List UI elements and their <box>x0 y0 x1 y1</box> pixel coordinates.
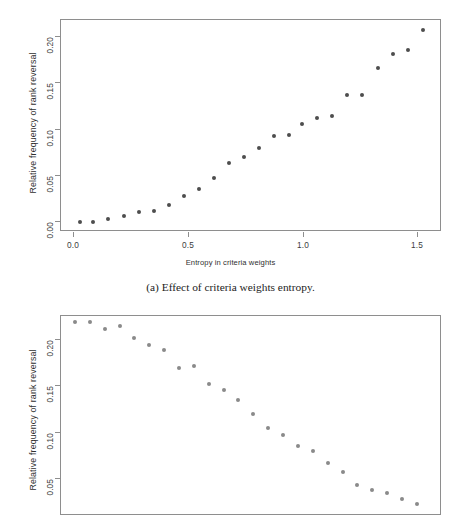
data-point <box>207 382 211 386</box>
data-point <box>147 343 151 347</box>
data-point <box>132 336 136 340</box>
data-point <box>222 388 226 392</box>
data-point <box>385 491 389 495</box>
data-point <box>192 364 196 368</box>
data-point <box>236 398 240 402</box>
y-tick-label-b-3: 0.20 <box>45 340 55 390</box>
data-point <box>311 449 315 453</box>
data-point <box>118 324 122 328</box>
data-point <box>281 433 285 437</box>
y-tick-label-b-1: 0.10 <box>45 433 55 483</box>
data-point <box>326 461 330 465</box>
data-point <box>415 502 419 506</box>
data-point <box>177 366 181 370</box>
data-point <box>88 320 92 324</box>
data-point <box>73 320 77 324</box>
data-point <box>341 470 345 474</box>
scatter-points-b <box>60 315 441 515</box>
data-point <box>162 348 166 352</box>
y-tick-label-b-2: 0.15 <box>45 386 55 436</box>
data-point <box>355 483 359 487</box>
data-point <box>103 327 107 331</box>
data-point <box>400 497 404 501</box>
y-axis-title-b: Relative frequency of rank reversal <box>28 325 38 515</box>
data-point <box>296 444 300 448</box>
y-tick-label-b-0: 0.05 <box>45 479 55 519</box>
data-point <box>370 488 374 492</box>
data-point <box>266 426 270 430</box>
data-point <box>251 412 255 416</box>
